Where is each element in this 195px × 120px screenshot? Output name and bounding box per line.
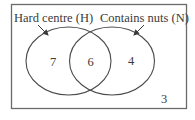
outside-count: 3 xyxy=(161,92,167,106)
venn-diagram: Hard centre (H) Contains nuts (N) 7 6 4 … xyxy=(0,0,195,120)
set-n-circle xyxy=(70,27,155,95)
intersection-count: 6 xyxy=(87,55,93,69)
set-n-arrow-icon xyxy=(134,25,144,35)
set-h-circle xyxy=(26,27,111,95)
n-only-count: 4 xyxy=(128,54,135,68)
set-n-label: Contains nuts (N) xyxy=(100,11,189,25)
set-h-label: Hard centre (H) xyxy=(14,11,93,25)
h-only-count: 7 xyxy=(50,55,56,69)
